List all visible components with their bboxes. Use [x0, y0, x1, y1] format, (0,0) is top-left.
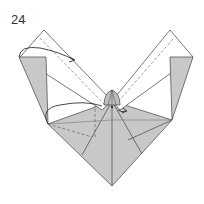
right-gray-flap: [170, 57, 193, 120]
bottom-gray-panel: [48, 101, 172, 186]
fold-diagram: [0, 0, 204, 204]
left-gray-flap: [19, 57, 48, 124]
